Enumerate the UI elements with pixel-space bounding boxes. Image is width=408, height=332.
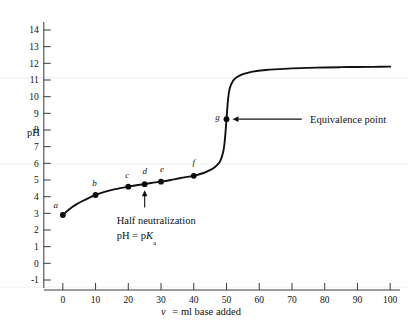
x-tick-label: 100 <box>383 295 398 305</box>
x-tick-label: 20 <box>124 295 134 305</box>
chart-annotations: Half neutralizationpH = pKaEquivalence p… <box>117 114 386 247</box>
half-neutralization-line2: pH = pKa <box>117 230 157 248</box>
y-tick-label: 13 <box>29 42 39 52</box>
titration-curve-line <box>63 67 390 215</box>
equivalence-point-arrowhead <box>233 116 239 122</box>
y-tick-label: 6 <box>34 159 39 169</box>
x-axis-title-text: = ml base added <box>172 306 241 317</box>
x-tick-label: 60 <box>254 295 264 305</box>
equivalence-point-label: Equivalence point <box>310 114 386 125</box>
half-neutralization-arrowhead <box>142 190 148 196</box>
data-point-a[interactable] <box>60 212 66 218</box>
data-point-c[interactable] <box>125 184 131 190</box>
y-tick-label: 0 <box>34 259 39 269</box>
data-point-label-f: f <box>193 157 197 167</box>
titration-curve-chart: -101234567891011121314 01020304050607080… <box>0 0 408 332</box>
data-point-d[interactable] <box>142 181 148 187</box>
y-tick-label: 4 <box>34 192 39 202</box>
half-neutralization-ph: pH = p <box>117 230 146 241</box>
data-point-label-d: d <box>142 166 147 176</box>
data-point-label-c: c <box>125 170 129 180</box>
data-point-label-a: a <box>54 200 59 210</box>
x-tick-label: 50 <box>222 295 232 305</box>
x-tick-label: 90 <box>353 295 363 305</box>
x-tick-label: 70 <box>287 295 297 305</box>
y-tick-label: 10 <box>29 92 39 102</box>
y-tick-label: 14 <box>29 25 39 35</box>
y-tick-label: 1 <box>34 242 39 252</box>
data-point-f[interactable] <box>191 173 197 179</box>
x-tick-label: 40 <box>189 295 199 305</box>
x-tick-label: 30 <box>156 295 166 305</box>
x-axis-title: v = ml base added <box>161 306 242 317</box>
y-tick-label: 9 <box>34 109 39 119</box>
x-axis-title-variable: v <box>161 306 166 317</box>
y-tick-label: 11 <box>30 75 39 85</box>
data-point-label-g: g <box>215 112 220 122</box>
y-tick-label: 5 <box>34 175 39 185</box>
x-tick-label: 80 <box>320 295 330 305</box>
page-rules <box>0 78 408 287</box>
x-tick-label: 0 <box>60 295 65 305</box>
half-neutralization-subscript: a <box>153 239 157 247</box>
y-tick-label: -1 <box>31 275 39 285</box>
data-point-label-b: b <box>92 178 97 188</box>
data-point-g[interactable] <box>224 116 230 122</box>
x-axis: 0102030405060708090100 <box>44 283 400 305</box>
y-tick-label: 2 <box>34 225 39 235</box>
y-axis: -101234567891011121314 <box>29 22 51 288</box>
data-point-b[interactable] <box>93 192 99 198</box>
y-axis-title: pH <box>27 127 40 138</box>
y-tick-label: 7 <box>34 142 39 152</box>
x-tick-label: 10 <box>91 295 101 305</box>
y-tick-label: 3 <box>34 209 39 219</box>
data-point-e[interactable] <box>158 179 164 185</box>
half-neutralization-line1: Half neutralization <box>117 215 197 226</box>
chart-page: -101234567891011121314 01020304050607080… <box>0 0 408 332</box>
data-point-label-e: e <box>160 164 164 174</box>
y-tick-label: 12 <box>29 59 39 69</box>
curve-series <box>63 67 390 215</box>
